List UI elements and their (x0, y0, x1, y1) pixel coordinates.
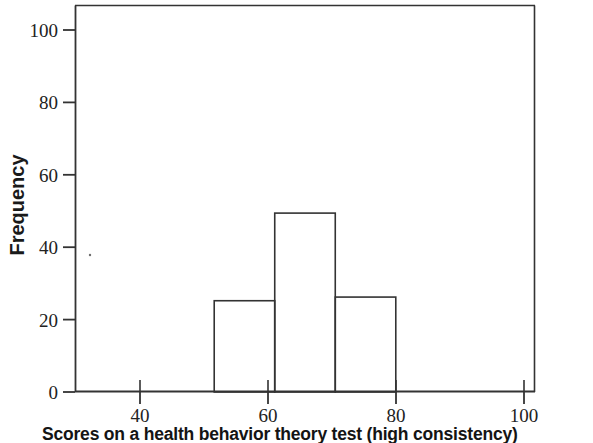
x-tick-label-80: 80 (387, 405, 406, 426)
y-tick-label-40: 40 (39, 237, 58, 258)
histogram-bar (335, 297, 396, 392)
print-speck (89, 254, 91, 256)
x-axis-ticks-lower (140, 392, 524, 404)
histogram-bar (214, 301, 275, 392)
x-tick-label-100: 100 (510, 405, 539, 426)
chart-svg: 0 20 40 60 80 100 Frequency 40 60 80 (0, 0, 593, 443)
y-tick-label-80: 80 (39, 92, 58, 113)
y-tick-label-0: 0 (49, 382, 59, 403)
y-tick-label-100: 100 (30, 20, 59, 41)
y-tick-labels: 0 20 40 60 80 100 (30, 20, 59, 403)
histogram-figure: 0 20 40 60 80 100 Frequency 40 60 80 (0, 0, 593, 443)
plot-frame (75, 6, 535, 393)
y-axis-ticks (63, 30, 75, 392)
histogram-bar (275, 213, 336, 392)
x-tick-labels: 40 60 80 100 (131, 405, 539, 426)
figure-caption: Scores on a health behavior theory test … (42, 424, 593, 443)
x-tick-label-60: 60 (259, 405, 278, 426)
x-tick-label-40: 40 (131, 405, 150, 426)
x-axis-ticks-upper (140, 380, 524, 392)
y-tick-label-20: 20 (39, 310, 58, 331)
y-axis-title: Frequency (6, 154, 28, 256)
y-tick-label-60: 60 (39, 165, 58, 186)
histogram-bars (214, 213, 396, 392)
